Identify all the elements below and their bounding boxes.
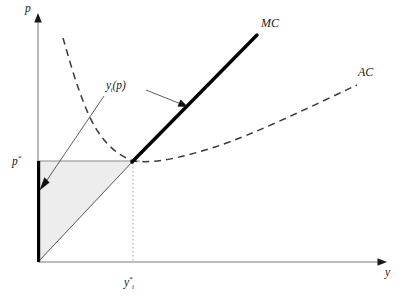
quantity-axis-label: y xyxy=(385,267,390,279)
marginal-cost-label: MC xyxy=(261,17,279,29)
marginal-cost-curve xyxy=(132,35,257,162)
price-star-label: p* xyxy=(12,155,21,167)
average-cost-curve xyxy=(63,38,357,162)
quantity-axis-arrowhead xyxy=(378,258,388,266)
mc-pointer-line xyxy=(146,90,181,104)
supply-function-label: yi(p) xyxy=(106,80,126,94)
quantity-star-label: y*i xyxy=(124,276,134,291)
price-axis-arrowhead xyxy=(34,13,42,23)
figure-canvas: p y p* y*i MC AC yi(p) xyxy=(0,0,403,305)
price-axis-label: p xyxy=(25,3,31,15)
average-cost-label: AC xyxy=(358,66,373,78)
mc-pointer-arrowhead xyxy=(178,99,189,107)
diagram-svg xyxy=(0,0,403,305)
